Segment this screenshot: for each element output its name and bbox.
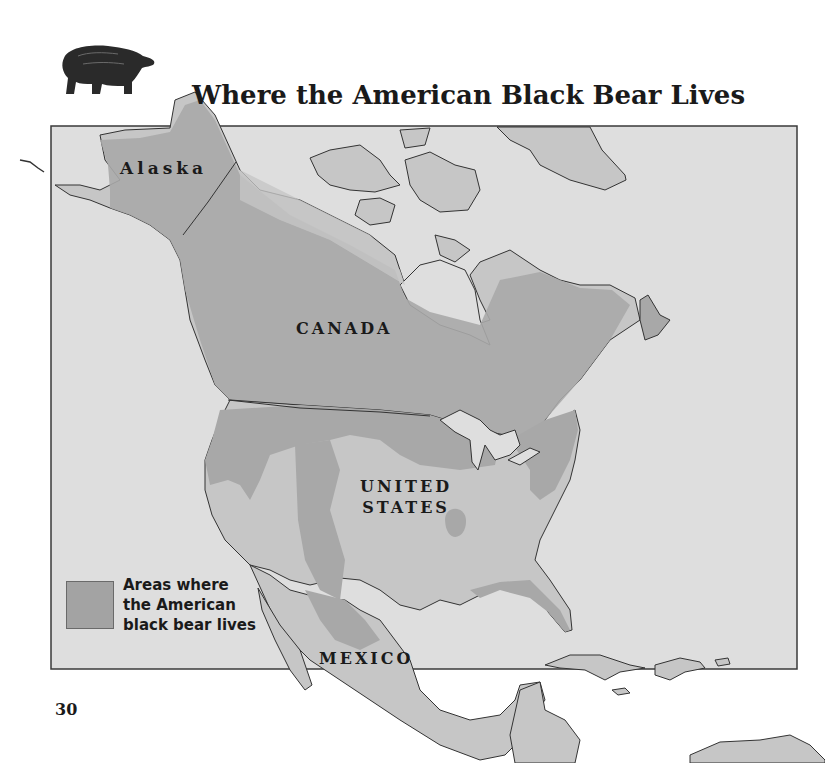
legend-swatch: [66, 581, 114, 629]
page-number: 30: [55, 700, 77, 719]
legend-line-3: black bear lives: [123, 615, 256, 635]
central-america: [510, 682, 580, 763]
bear-icon: [58, 38, 158, 98]
label-canada: CANADA: [296, 319, 392, 338]
aleutian-islands: [20, 160, 44, 172]
legend-text: Areas where the American black bear live…: [123, 575, 256, 635]
label-mexico: MEXICO: [319, 649, 413, 668]
puerto-rico: [715, 658, 730, 666]
arctic-island-5: [400, 128, 430, 148]
jamaica: [612, 688, 630, 695]
page-title: Where the American Black Bear Lives: [192, 80, 745, 110]
label-alaska: Alaska: [120, 158, 207, 178]
south-america: [690, 735, 825, 763]
legend-line-2: the American: [123, 595, 256, 615]
label-united-states: UNITED STATES: [360, 476, 452, 518]
legend-line-1: Areas where: [123, 575, 256, 595]
label-united-states-line2: STATES: [360, 497, 452, 518]
label-united-states-line1: UNITED: [360, 476, 452, 497]
